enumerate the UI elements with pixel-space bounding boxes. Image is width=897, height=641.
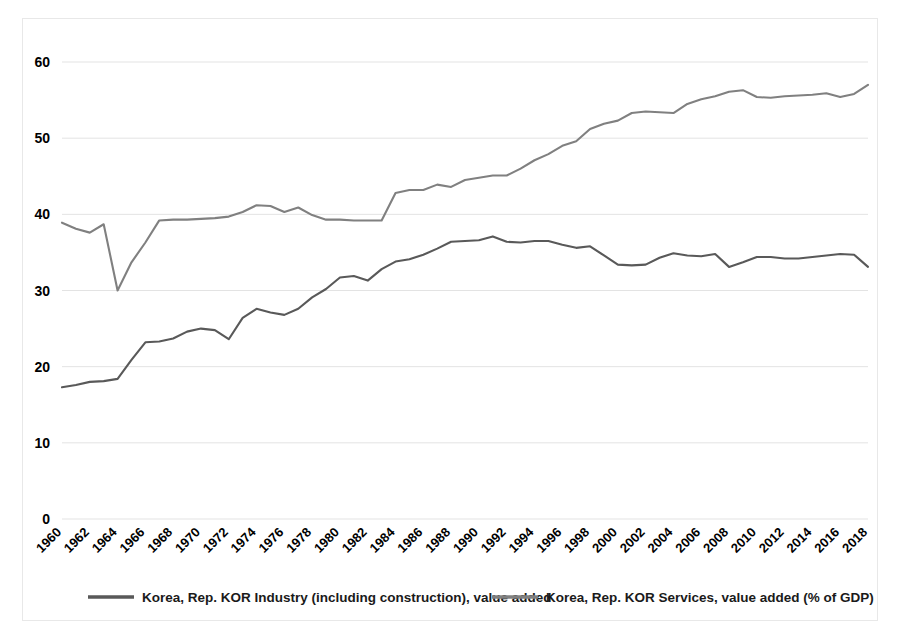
x-tick-label-1978: 1978 (283, 525, 314, 556)
x-tick-label-1970: 1970 (172, 525, 203, 556)
legend-label-services: Korea, Rep. KOR Services, value added (%… (546, 590, 874, 605)
x-tick-label-1976: 1976 (255, 525, 286, 556)
chart-legend: Korea, Rep. KOR Industry (including cons… (88, 590, 874, 605)
x-tick-label-2010: 2010 (728, 525, 759, 556)
y-tick-label-10: 10 (34, 435, 50, 451)
x-tick-label-1968: 1968 (144, 525, 175, 556)
chart-svg: 0102030405060 19601962196419661968197019… (0, 0, 897, 641)
x-tick-label-1982: 1982 (339, 525, 370, 556)
legend-label-industry: Korea, Rep. KOR Industry (including cons… (142, 590, 552, 605)
series-line-industry (62, 236, 868, 387)
chart-container: 0102030405060 19601962196419661968197019… (0, 0, 897, 641)
x-tick-label-2014: 2014 (783, 524, 815, 556)
gridlines (62, 62, 868, 519)
data-series-group (62, 85, 868, 387)
x-tick-label-2006: 2006 (672, 525, 703, 556)
x-tick-label-2016: 2016 (811, 525, 842, 556)
x-tick-label-1972: 1972 (200, 525, 231, 556)
y-axis-tick-labels: 0102030405060 (34, 54, 50, 527)
x-tick-label-2012: 2012 (756, 525, 787, 556)
x-tick-label-1974: 1974 (228, 524, 260, 556)
x-tick-label-2002: 2002 (617, 525, 648, 556)
y-tick-label-50: 50 (34, 130, 50, 146)
x-tick-label-1986: 1986 (394, 525, 425, 556)
x-tick-label-1994: 1994 (506, 524, 538, 556)
x-axis-tick-labels: 1960196219641966196819701972197419761978… (33, 524, 870, 556)
y-tick-label-0: 0 (42, 511, 50, 527)
y-tick-label-60: 60 (34, 54, 50, 70)
x-tick-label-1980: 1980 (311, 525, 342, 556)
y-tick-label-40: 40 (34, 206, 50, 222)
x-tick-label-1984: 1984 (367, 524, 399, 556)
x-tick-label-1990: 1990 (450, 525, 481, 556)
x-tick-label-2018: 2018 (839, 525, 870, 556)
x-tick-label-1998: 1998 (561, 525, 592, 556)
y-tick-label-20: 20 (34, 359, 50, 375)
x-tick-label-2000: 2000 (589, 525, 620, 556)
x-tick-label-1964: 1964 (89, 524, 121, 556)
x-tick-label-2004: 2004 (645, 524, 677, 556)
x-tick-label-1996: 1996 (533, 525, 564, 556)
x-tick-label-1992: 1992 (478, 525, 509, 556)
x-tick-label-2008: 2008 (700, 525, 731, 556)
y-tick-label-30: 30 (34, 283, 50, 299)
x-tick-label-1988: 1988 (422, 525, 453, 556)
x-tick-label-1960: 1960 (33, 525, 64, 556)
x-tick-label-1966: 1966 (116, 525, 147, 556)
x-tick-label-1962: 1962 (61, 525, 92, 556)
